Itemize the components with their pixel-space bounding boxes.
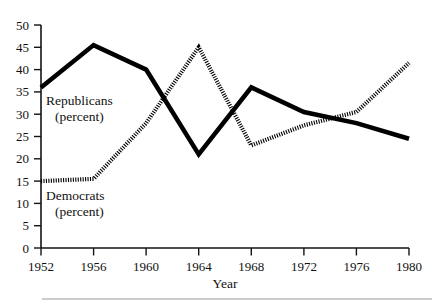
x-tick-label-1952: 1952 <box>28 259 54 274</box>
y-tick-label-10: 10 <box>16 196 29 211</box>
y-tick-label-25: 25 <box>16 129 29 144</box>
y-tick-label-50: 50 <box>16 18 29 33</box>
y-tick-label-5: 5 <box>23 218 30 233</box>
annotation-democrats-line1: Democrats <box>46 188 104 203</box>
line-chart-canvas: 50 45 40 35 30 25 20 15 10 5 0 1952 1956… <box>0 0 443 304</box>
y-tick-label-0: 0 <box>23 241 30 256</box>
y-tick-label-20: 20 <box>16 151 29 166</box>
x-tick-label-1964: 1964 <box>186 259 213 274</box>
annotation-democrats: Democrats (percent) <box>46 188 104 219</box>
x-tick-label-1972: 1972 <box>291 259 317 274</box>
annotation-republicans-line2: (percent) <box>55 109 104 124</box>
y-tick-label-15: 15 <box>16 174 29 189</box>
x-axis-title: Year <box>213 276 238 291</box>
x-tick-label-1976: 1976 <box>343 259 370 274</box>
x-tick-label-1968: 1968 <box>238 259 264 274</box>
chart-figure: 50 45 40 35 30 25 20 15 10 5 0 1952 1956… <box>0 0 443 304</box>
y-tick-label-30: 30 <box>16 107 29 122</box>
x-tick-label-1960: 1960 <box>133 259 159 274</box>
x-axis-tick-labels: 1952 1956 1960 1964 1968 1972 1976 1980 <box>28 259 422 274</box>
annotation-republicans-line1: Republicans <box>46 93 113 108</box>
annotation-republicans: Republicans (percent) <box>46 93 113 124</box>
x-tick-marks <box>41 248 409 256</box>
y-tick-marks <box>34 25 41 248</box>
annotation-democrats-line2: (percent) <box>55 204 104 219</box>
y-tick-label-45: 45 <box>16 40 29 55</box>
y-tick-label-40: 40 <box>16 62 29 77</box>
y-tick-label-35: 35 <box>16 84 29 99</box>
axes-group <box>34 25 409 256</box>
y-axis-tick-labels: 50 45 40 35 30 25 20 15 10 5 0 <box>16 18 29 256</box>
x-tick-label-1956: 1956 <box>81 259 108 274</box>
x-tick-label-1980: 1980 <box>396 259 422 274</box>
